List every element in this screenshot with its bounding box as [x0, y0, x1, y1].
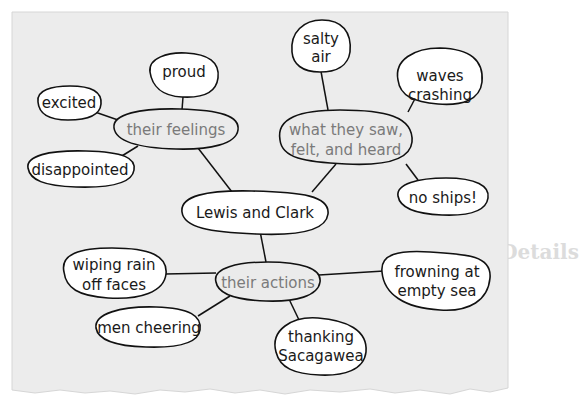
svg-text:waves: waves [416, 67, 464, 85]
svg-text:empty sea: empty sea [397, 282, 476, 300]
svg-text:crashing: crashing [408, 86, 472, 104]
svg-text:thanking: thanking [288, 328, 354, 346]
svg-text:their actions: their actions [221, 274, 315, 292]
bubble-disappointed: disappointed [28, 151, 134, 187]
svg-text:no ships!: no ships! [409, 189, 477, 207]
svg-text:proud: proud [162, 63, 206, 81]
svg-text:Lewis and Clark: Lewis and Clark [196, 204, 314, 222]
svg-text:what they saw,: what they saw, [289, 121, 403, 139]
bubble-waves-crashing: waves crashing [397, 48, 482, 104]
svg-text:Sacagawea: Sacagawea [278, 347, 364, 365]
svg-text:salty: salty [303, 30, 339, 48]
bubble-excited: excited [38, 86, 101, 120]
svg-text:off faces: off faces [82, 276, 146, 294]
svg-text:their feelings: their feelings [127, 121, 226, 139]
bubble-salty-air: salty air [292, 20, 350, 72]
svg-text:excited: excited [42, 94, 97, 112]
svg-text:disappointed: disappointed [31, 161, 128, 179]
svg-text:wiping rain: wiping rain [73, 256, 156, 274]
category-their-actions: their actions [216, 262, 321, 301]
svg-text:frowning at: frowning at [394, 263, 479, 281]
bubble-men-cheering: men cheering [96, 307, 201, 347]
bubble-no-ships: no ships! [398, 178, 488, 215]
bubble-proud: proud [150, 53, 218, 97]
svg-text:air: air [311, 48, 331, 66]
bubble-wiping-rain: wiping rain off faces [63, 248, 166, 298]
category-senses: what they saw, felt, and heard [280, 110, 413, 164]
category-their-feelings: their feelings [114, 109, 238, 149]
bubble-thanking-sacagawea: thanking Sacagawea [275, 318, 366, 375]
center-node-lewis-and-clark: Lewis and Clark [182, 191, 328, 234]
svg-text:men cheering: men cheering [97, 319, 201, 337]
svg-text:felt, and heard: felt, and heard [291, 141, 401, 159]
